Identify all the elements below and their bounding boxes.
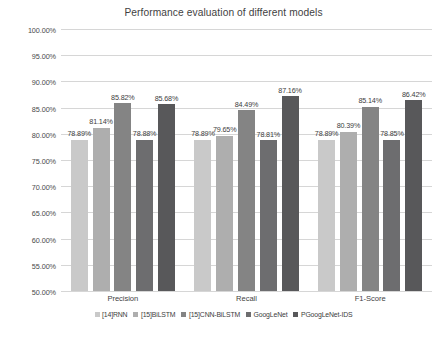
legend-swatch-icon bbox=[133, 312, 138, 317]
bar[interactable]: 80.39% bbox=[340, 132, 357, 291]
x-axis-tick-label: F1-Score bbox=[308, 294, 432, 303]
legend-item[interactable]: GoogLeNet bbox=[246, 311, 287, 318]
bar-value-label: 85.68% bbox=[155, 94, 178, 103]
legend-label: GoogLeNet bbox=[254, 311, 288, 318]
legend-item[interactable]: PGoogLeNet-IDS bbox=[293, 311, 352, 318]
y-axis-tick-label: 95.00% bbox=[32, 52, 56, 61]
legend-swatch-icon bbox=[181, 312, 186, 317]
legend-label: [14]RNN bbox=[102, 311, 127, 318]
chart-legend: [14]RNN[15]BiLSTM[15]CNN-BiLSTMGoogLeNet… bbox=[0, 311, 447, 318]
bar-slot: 79.65% bbox=[216, 29, 233, 291]
legend-item[interactable]: [15]CNN-BiLSTM bbox=[181, 311, 240, 318]
bar-slot: 78.89% bbox=[71, 29, 88, 291]
y-axis-tick-label: 50.00% bbox=[32, 288, 56, 297]
bar[interactable]: 78.89% bbox=[71, 140, 88, 291]
plot-area: 100.00%95.00%90.00%85.00%80.00%75.00%70.… bbox=[61, 29, 432, 292]
bar-value-label: 78.89% bbox=[191, 129, 214, 138]
x-axis-labels: PrecisionRecallF1-Score bbox=[61, 294, 432, 303]
bar-value-label: 84.49% bbox=[235, 100, 258, 109]
bar-value-label: 78.81% bbox=[257, 130, 280, 139]
bar[interactable]: 85.82% bbox=[114, 103, 131, 291]
bar-value-label: 85.82% bbox=[111, 93, 134, 102]
bar-slot: 78.88% bbox=[136, 29, 153, 291]
bar-value-label: 86.42% bbox=[402, 90, 425, 99]
bar-slot: 80.39% bbox=[340, 29, 357, 291]
bar-slot: 87.16% bbox=[282, 29, 299, 291]
bar[interactable]: 87.16% bbox=[282, 96, 299, 291]
bar-slot: 78.81% bbox=[260, 29, 277, 291]
y-axis-tick-label: 85.00% bbox=[32, 104, 56, 113]
x-axis-tick-label: Recall bbox=[185, 294, 309, 303]
bar[interactable]: 78.89% bbox=[194, 140, 211, 291]
bar[interactable]: 81.14% bbox=[93, 128, 110, 291]
y-axis-tick-label: 60.00% bbox=[32, 235, 56, 244]
performance-bar-chart: Performance evaluation of different mode… bbox=[0, 0, 447, 340]
bar-group: 78.89%80.39%85.14%78.85%86.42% bbox=[308, 29, 432, 291]
bar[interactable]: 78.88% bbox=[136, 140, 153, 291]
bars-layer: 78.89%81.14%85.82%78.88%85.68%78.89%79.6… bbox=[61, 29, 432, 291]
bar-slot: 78.85% bbox=[383, 29, 400, 291]
bar-value-label: 80.39% bbox=[337, 121, 360, 130]
legend-item[interactable]: [14]RNN bbox=[95, 311, 128, 318]
bar-slot: 84.49% bbox=[238, 29, 255, 291]
bar-value-label: 85.14% bbox=[358, 96, 381, 105]
bar[interactable]: 78.81% bbox=[260, 140, 277, 291]
bar-slot: 85.68% bbox=[158, 29, 175, 291]
y-axis-tick-label: 100.00% bbox=[28, 26, 56, 35]
legend-swatch-icon bbox=[246, 312, 251, 317]
legend-swatch-icon bbox=[95, 312, 100, 317]
y-axis-tick-label: 70.00% bbox=[32, 183, 56, 192]
y-axis-tick-label: 65.00% bbox=[32, 209, 56, 218]
bar-value-label: 79.65% bbox=[213, 125, 236, 134]
bar-slot: 85.82% bbox=[114, 29, 131, 291]
bar[interactable]: 79.65% bbox=[216, 136, 233, 291]
y-axis-tick-label: 55.00% bbox=[32, 261, 56, 270]
bar-slot: 78.89% bbox=[318, 29, 335, 291]
bar-slot: 85.14% bbox=[362, 29, 379, 291]
legend-label: PGoogLeNet-IDS bbox=[301, 311, 353, 318]
y-axis-tick-label: 90.00% bbox=[32, 78, 56, 87]
bar-slot: 81.14% bbox=[93, 29, 110, 291]
bar[interactable]: 85.68% bbox=[158, 104, 175, 291]
bar-value-label: 78.88% bbox=[133, 129, 156, 138]
x-axis-tick-label: Precision bbox=[61, 294, 185, 303]
bar-slot: 78.89% bbox=[194, 29, 211, 291]
gridline: 50.00% bbox=[61, 291, 432, 292]
bar[interactable]: 84.49% bbox=[238, 110, 255, 291]
bar-slot: 86.42% bbox=[405, 29, 422, 291]
legend-label: [15]CNN-BiLSTM bbox=[189, 311, 240, 318]
bar-value-label: 78.89% bbox=[68, 129, 91, 138]
bar[interactable]: 86.42% bbox=[405, 100, 422, 291]
bar-value-label: 78.89% bbox=[315, 129, 338, 138]
bar[interactable]: 78.85% bbox=[383, 140, 400, 291]
bar[interactable]: 85.14% bbox=[362, 107, 379, 291]
legend-swatch-icon bbox=[293, 312, 298, 317]
legend-label: [15]BiLSTM bbox=[141, 311, 176, 318]
bar[interactable]: 78.89% bbox=[318, 140, 335, 291]
y-axis-tick-label: 75.00% bbox=[32, 157, 56, 166]
bar-value-label: 78.85% bbox=[380, 129, 403, 138]
bar-group: 78.89%81.14%85.82%78.88%85.68% bbox=[61, 29, 185, 291]
bar-group: 78.89%79.65%84.49%78.81%87.16% bbox=[185, 29, 309, 291]
y-axis-tick-label: 80.00% bbox=[32, 130, 56, 139]
bar-value-label: 87.16% bbox=[278, 86, 301, 95]
bar-value-label: 81.14% bbox=[89, 117, 112, 126]
legend-item[interactable]: [15]BiLSTM bbox=[133, 311, 175, 318]
chart-title: Performance evaluation of different mode… bbox=[0, 7, 447, 18]
